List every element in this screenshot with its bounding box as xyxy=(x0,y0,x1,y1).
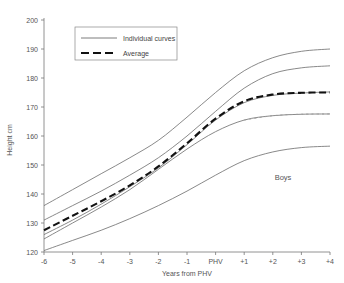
x-axis-tick-label: PHV xyxy=(208,258,223,265)
individual-curve-4-dotted-tail xyxy=(244,114,330,120)
x-axis-tick-label: -5 xyxy=(69,258,75,265)
x-axis-tick-label: -1 xyxy=(184,258,190,265)
chart-legend: Individual curvesAverage xyxy=(75,27,177,60)
x-axis-tick-label: -6 xyxy=(41,258,47,265)
y-axis-tick-label: 140 xyxy=(26,191,38,198)
y-axis-tick-label: 200 xyxy=(26,17,38,24)
y-axis: 120130140150160170180190200 xyxy=(26,17,44,256)
chart-annotation-boys: Boys xyxy=(275,173,292,182)
y-axis-tick-label: 180 xyxy=(26,75,38,82)
legend-label-0: Individual curves xyxy=(123,35,176,42)
data-series-group xyxy=(44,49,330,251)
x-axis-tick-label: -2 xyxy=(155,258,161,265)
x-axis-tick-label: +1 xyxy=(240,258,248,265)
legend-label-1: Average xyxy=(123,50,149,58)
x-axis: -6-5-4-3-2-1PHV+1+2+3+4 xyxy=(41,252,334,265)
x-axis-tick-label: -4 xyxy=(98,258,104,265)
x-axis-title: Years from PHV xyxy=(162,270,212,277)
y-axis-tick-label: 150 xyxy=(26,162,38,169)
individual-curve-3 xyxy=(44,92,330,235)
chart-svg: 120130140150160170180190200 -6-5-4-3-2-1… xyxy=(0,0,344,283)
y-axis-title: Height cm xyxy=(6,124,14,156)
y-axis-tick-label: 170 xyxy=(26,104,38,111)
y-axis-tick-label: 130 xyxy=(26,220,38,227)
individual-curve-1 xyxy=(44,49,330,206)
growth-chart: 120130140150160170180190200 -6-5-4-3-2-1… xyxy=(0,0,344,283)
average-curve xyxy=(44,93,330,231)
y-axis-tick-label: 160 xyxy=(26,133,38,140)
y-axis-tick-label: 190 xyxy=(26,46,38,53)
x-axis-tick-label: +2 xyxy=(269,258,277,265)
x-axis-tick-label: +3 xyxy=(297,258,305,265)
y-axis-tick-label: 120 xyxy=(26,249,38,256)
x-axis-tick-label: -3 xyxy=(127,258,133,265)
x-axis-tick-label: +4 xyxy=(326,258,334,265)
